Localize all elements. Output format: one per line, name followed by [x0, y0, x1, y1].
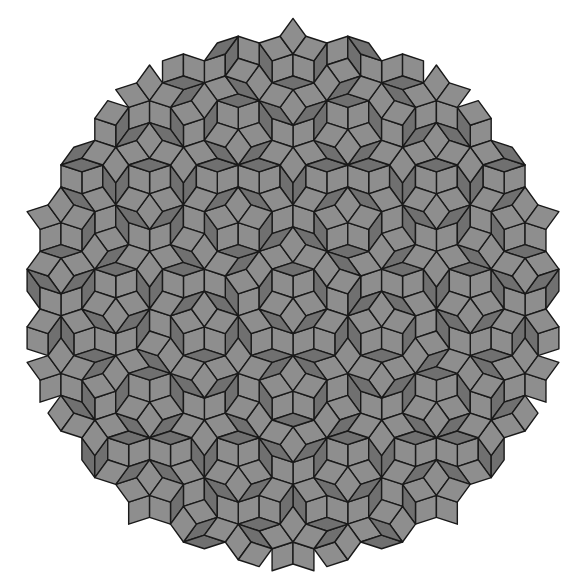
penrose-tiling: [0, 0, 587, 580]
penrose-tiling-canvas: [0, 0, 587, 580]
